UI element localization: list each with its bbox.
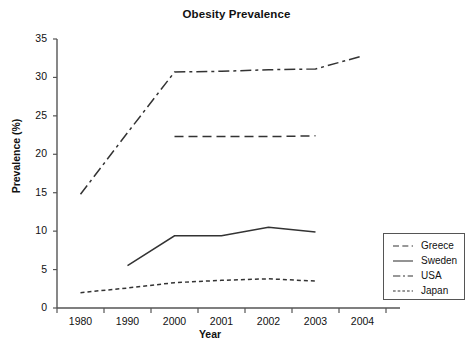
y-tick-label: 20	[21, 147, 47, 159]
chart-legend: GreeceSwedenUSAJapan	[383, 233, 465, 300]
legend-label: Greece	[421, 238, 454, 254]
legend-swatch-greece-icon	[388, 245, 418, 247]
x-axis-ticks	[57, 308, 386, 313]
legend-item-japan[interactable]: Japan	[388, 283, 464, 299]
legend-label: USA	[421, 268, 442, 284]
plot-area	[0, 0, 473, 353]
legend-item-sweden[interactable]: Sweden	[388, 253, 464, 269]
y-tick-label: 30	[21, 70, 47, 82]
y-tick-label: 25	[21, 109, 47, 121]
legend-label: Sweden	[421, 253, 457, 269]
legend-swatch-usa-icon	[388, 275, 418, 277]
series-line-usa	[81, 56, 363, 194]
legend-label: Japan	[421, 283, 448, 299]
y-tick-label: 0	[21, 301, 47, 313]
axes	[53, 39, 400, 313]
y-tick-label: 35	[21, 32, 47, 44]
legend-swatch-japan-icon	[388, 290, 418, 292]
legend-item-usa[interactable]: USA	[388, 268, 464, 284]
chart-figure: Obesity Prevalence Prevalence (%) 051015…	[0, 0, 473, 353]
x-axis-title: Year	[0, 328, 420, 340]
x-tick-label: 2004	[339, 315, 386, 327]
data-series-group	[81, 56, 363, 293]
x-tick-label: 2003	[292, 315, 339, 327]
x-tick-label: 1990	[104, 315, 151, 327]
y-tick-label: 10	[21, 224, 47, 236]
y-tick-label: 15	[21, 186, 47, 198]
series-line-japan	[81, 279, 316, 293]
x-tick-label: 2001	[198, 315, 245, 327]
x-tick-label: 2000	[151, 315, 198, 327]
legend-swatch-sweden-icon	[388, 260, 418, 262]
x-tick-label: 1980	[57, 315, 104, 327]
series-line-greece	[175, 136, 316, 137]
y-tick-label: 5	[21, 263, 47, 275]
legend-item-greece[interactable]: Greece	[388, 238, 464, 254]
x-tick-label: 2002	[245, 315, 292, 327]
series-line-sweden	[128, 227, 316, 265]
